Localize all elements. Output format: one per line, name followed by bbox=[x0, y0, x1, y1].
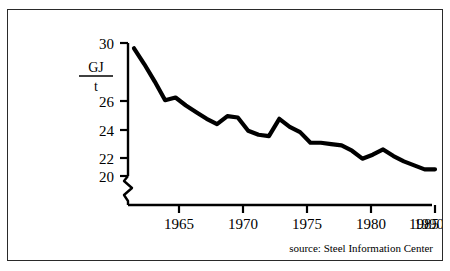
chart-figure: 30 26 24 22 20 GJ t 1965 1970 1975 1980 … bbox=[7, 9, 443, 261]
y-axis-unit-numerator: GJ bbox=[88, 60, 104, 75]
x-tick-label-1980: 1980 bbox=[356, 216, 386, 232]
source-note: source: Steel Information Center bbox=[289, 242, 433, 254]
x-tick-label-1975: 1975 bbox=[292, 216, 322, 232]
y-tick-label-20: 20 bbox=[99, 169, 114, 185]
x-tick-label-1990: 1990 bbox=[414, 216, 442, 232]
line-chart-plot: 30 26 24 22 20 GJ t 1965 1970 1975 1980 … bbox=[8, 10, 442, 260]
y-tick-label-30: 30 bbox=[99, 36, 114, 52]
y-axis-unit-denominator: t bbox=[94, 79, 98, 94]
y-axis-break-symbol bbox=[124, 176, 132, 205]
y-tick-label-26: 26 bbox=[99, 94, 115, 110]
x-tick-label-1965: 1965 bbox=[164, 216, 194, 232]
y-tick-label-24: 24 bbox=[99, 123, 115, 139]
x-tick-label-1970: 1970 bbox=[228, 216, 258, 232]
data-series-line bbox=[134, 48, 435, 169]
y-tick-label-22: 22 bbox=[99, 151, 114, 167]
